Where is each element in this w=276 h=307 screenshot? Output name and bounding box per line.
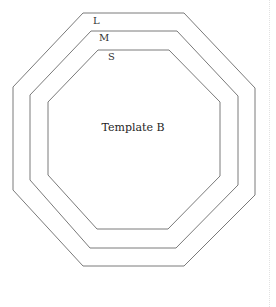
size-label-large: L <box>93 16 100 26</box>
size-label-medium: M <box>99 33 109 43</box>
octagon-outline-medium <box>30 31 238 248</box>
page-edge-divider <box>269 0 270 307</box>
octagon-template-diagram <box>0 0 276 307</box>
template-title: Template B <box>101 122 164 133</box>
octagon-outline-large <box>13 13 255 266</box>
size-label-small: S <box>108 52 115 62</box>
octagon-outline-small <box>48 50 220 229</box>
